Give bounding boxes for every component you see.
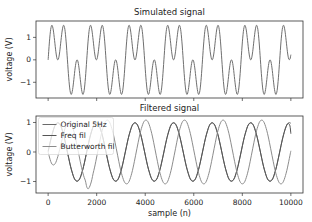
legend-label-original-5hz: Original 5Hz — [61, 120, 107, 129]
simulated-signal-title: Simulated signal — [134, 7, 205, 17]
filtered-signal-ytick-label: 0 — [26, 148, 31, 157]
filtered-signal-xtick-label: 8000 — [233, 198, 252, 207]
figure: Simulated signal voltage (V) −101 Filter… — [0, 0, 312, 222]
legend: Original 5HzFreq filButterworth fil — [39, 118, 115, 155]
filtered-signal-ytick-label: −1 — [20, 177, 31, 186]
filtered-signal-xtick-label: 4000 — [136, 198, 155, 207]
legend-label-freq-fil: Freq fil — [61, 131, 86, 140]
simulated-signal-ylabel: voltage (V) — [5, 37, 14, 81]
filtered-signal-xtick-label: 0 — [46, 198, 51, 207]
filtered-signal-xtick-label: 6000 — [184, 198, 203, 207]
filtered-signal-xtick-label: 2000 — [87, 198, 106, 207]
filtered-signal-xlabel: sample (n) — [148, 209, 191, 218]
filtered-signal-ytick-label: 1 — [26, 118, 31, 127]
simulated-signal-ytick-label: 1 — [26, 33, 31, 42]
filtered-signal-xtick-label: 10000 — [279, 198, 303, 207]
simulated-signal-ytick-label: −1 — [20, 78, 31, 87]
simulated-signal-ytick-label: 0 — [26, 55, 31, 64]
filtered-signal-ylabel: voltage (V) — [5, 132, 14, 176]
filtered-signal-title: Filtered signal — [140, 103, 199, 113]
legend-label-butterworth-fil: Butterworth fil — [61, 142, 115, 151]
